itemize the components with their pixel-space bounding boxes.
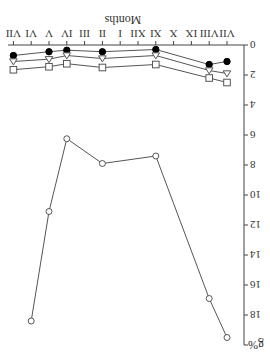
x-tick-label: IV — [61, 28, 73, 40]
data-point — [206, 75, 213, 82]
data-point — [99, 161, 105, 167]
series-line — [31, 139, 227, 338]
data-point — [99, 56, 107, 62]
y-tick-label: 18 — [250, 309, 262, 321]
x-tick-label: VIII — [199, 28, 218, 40]
x-tick-label: VII — [5, 28, 21, 40]
series-triangle — [10, 53, 231, 77]
x-tick-label: X — [170, 28, 178, 40]
y-tick-label: 8 — [250, 159, 256, 171]
y-tick-label: 16 — [250, 279, 262, 291]
x-tick-label: VI — [25, 28, 37, 40]
data-point — [64, 60, 71, 67]
data-point — [224, 335, 230, 341]
y-tick-label: 4 — [250, 99, 256, 111]
series-group — [10, 46, 231, 340]
x-axis-label: Months — [104, 13, 141, 27]
y-tick-label: 2 — [250, 69, 256, 81]
x-ticks: VIIVIIIIXXXIXIIIIIIIIIVVVIVII — [5, 28, 234, 45]
y-tick-label: 0 — [250, 39, 256, 51]
chart-container: VIIVIIIIXXXIXIIIIIIIIIVVVIVII 0246810121… — [0, 0, 270, 357]
data-point — [46, 63, 53, 70]
data-point — [10, 59, 18, 65]
x-tick-label: XII — [130, 28, 146, 40]
x-tick-label: I — [118, 28, 122, 40]
data-point — [99, 64, 106, 71]
y-tick-label: 10 — [250, 189, 262, 201]
y-tick-label: 12 — [250, 219, 261, 231]
y-tick-label: 6 — [250, 129, 256, 141]
data-point — [10, 52, 16, 58]
series-open-circle — [28, 136, 230, 341]
data-point — [224, 79, 231, 86]
x-tick-label: VII — [219, 28, 235, 40]
data-point — [153, 46, 159, 52]
data-point — [153, 61, 160, 68]
y-tick-label: 14 — [250, 249, 262, 261]
data-point — [153, 153, 159, 159]
x-tick-label: V — [45, 28, 53, 40]
x-tick-label: III — [79, 28, 90, 40]
data-point — [46, 49, 52, 55]
data-point — [206, 296, 212, 302]
data-point — [224, 58, 230, 64]
data-point — [28, 318, 34, 324]
y-ticks: 024681012141618 — [244, 39, 261, 345]
data-point — [10, 66, 17, 73]
y-axis-label: g% — [248, 338, 264, 352]
data-point — [206, 61, 212, 67]
data-point — [99, 49, 105, 55]
data-point — [223, 71, 231, 77]
x-tick-label: II — [98, 28, 106, 40]
x-tick-label: IX — [186, 28, 198, 40]
line-chart: VIIVIIIIXXXIXIIIIIIIIIVVVIVII 0246810121… — [0, 0, 270, 357]
series-square — [10, 60, 230, 85]
data-point — [46, 209, 52, 215]
data-point — [64, 136, 70, 142]
x-tick-label: XI — [150, 28, 162, 40]
